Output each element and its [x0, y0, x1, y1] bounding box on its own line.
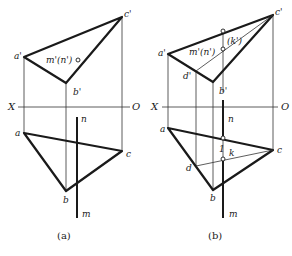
- label-n-b: n: [228, 115, 234, 124]
- label-a-prime-b: a': [158, 49, 166, 58]
- label-o-axis-a: O: [132, 102, 140, 112]
- panel-b-lines: [162, 15, 278, 218]
- label-a-a: a: [15, 129, 20, 138]
- label-x-axis-b: X: [151, 102, 158, 112]
- caption-b: (b): [208, 231, 222, 241]
- label-n-a: n: [81, 115, 87, 124]
- label-k-prime-b: (k'): [227, 37, 242, 46]
- label-b-b: b: [210, 194, 216, 203]
- label-c-prime-b: c': [275, 8, 283, 17]
- panel-a-lines: [18, 17, 130, 218]
- label-m-b: m: [229, 210, 238, 219]
- label-k-b: k: [229, 149, 234, 158]
- label-d-b: d: [186, 164, 192, 173]
- label-a-b: a: [160, 125, 165, 134]
- label-x-axis-a: X: [8, 102, 15, 112]
- label-mn-prime-b: m'(n'): [189, 48, 215, 57]
- label-c-prime-a: c': [124, 10, 132, 19]
- label-b-prime-a: b': [73, 88, 81, 97]
- caption-a: (a): [57, 231, 71, 241]
- label-o-axis-b: O: [281, 102, 289, 112]
- label-b-prime-b: b': [219, 87, 227, 96]
- projection-diagram: c' a' m'(n') b' X O n a c b m (a) c' a' …: [0, 0, 292, 256]
- label-one-b: 1: [219, 145, 225, 154]
- label-c-a: c: [126, 150, 131, 159]
- diagram-lines: [0, 0, 292, 256]
- label-m-a: m: [82, 210, 91, 219]
- label-c-b: c: [277, 146, 282, 155]
- label-a-prime-a: a': [14, 52, 22, 61]
- label-b-a: b: [63, 196, 69, 205]
- label-d-prime-b: d': [183, 72, 191, 81]
- label-mn-prime-a: m'(n'): [46, 56, 72, 65]
